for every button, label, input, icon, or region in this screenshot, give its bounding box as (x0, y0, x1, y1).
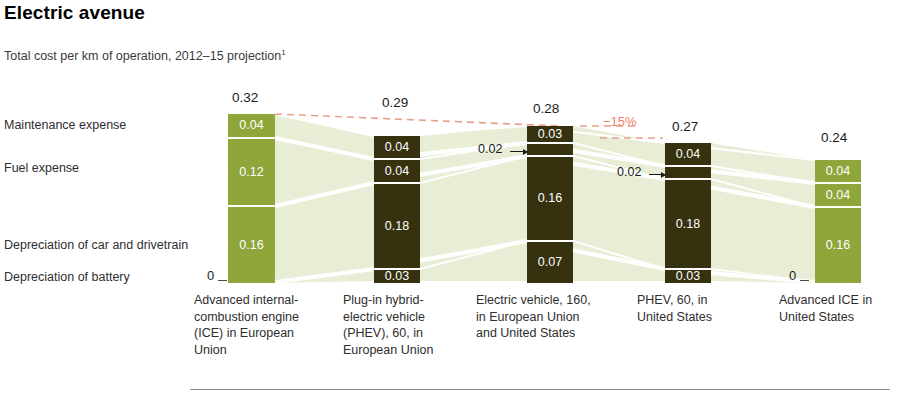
category-line: Advanced internal- (194, 292, 336, 309)
bar-segment-maintenance[interactable]: 0.03 (527, 126, 573, 142)
category-line: Union (194, 342, 336, 359)
category-label-ev-160-eu-us: Electric vehicle, 160, in European Union… (476, 292, 624, 342)
bar-segment-fuel[interactable]: 0.04 (374, 160, 420, 182)
zero-tick-left: 0 (207, 268, 214, 283)
callout-fuel-value: 0.02 (478, 142, 527, 156)
category-label-advanced-ice-us: Advanced ICE in United States (779, 292, 899, 325)
segment-value: 0.04 (826, 165, 850, 178)
bar-segment-battery[interactable]: 0.03 (665, 270, 711, 283)
bar-segment-drivetrain[interactable]: 0.16 (527, 157, 573, 240)
bar-total-label: 0.24 (821, 130, 847, 145)
category-line: in European Union (476, 309, 624, 326)
segment-value: 0.04 (826, 189, 850, 202)
bar-segment-maintenance[interactable]: 0.04 (815, 160, 861, 182)
footnote-divider (190, 389, 890, 390)
bar-segment-fuel[interactable]: 0.02 (527, 144, 573, 155)
segment-value: 0.07 (538, 256, 562, 269)
bar-segment-fuel[interactable]: 0.12 (228, 139, 275, 205)
bar-total-label: 0.28 (533, 101, 559, 116)
category-line: European Union (343, 342, 473, 359)
segment-value: 0.04 (385, 165, 409, 178)
category-label-phev-60-us: PHEV, 60, in United States (637, 292, 757, 325)
category-line: (ICE) in European (194, 325, 336, 342)
callout-label: 0.02 (478, 142, 502, 156)
segment-value: 0.04 (239, 119, 263, 132)
category-line: Advanced ICE in (779, 292, 899, 309)
bar-segment-maintenance[interactable]: 0.04 (374, 136, 420, 158)
segment-value: 0.03 (385, 270, 409, 283)
bar-total-label: 0.32 (232, 90, 258, 105)
delta-annotation: −15% (603, 114, 637, 129)
category-line: United States (637, 309, 757, 326)
trend-dashed-line (275, 114, 640, 126)
segment-value: 0.03 (676, 270, 700, 283)
category-line: (PHEV), 60, in (343, 325, 473, 342)
category-line: Plug-in hybrid- (343, 292, 473, 309)
bar-total-label: 0.29 (382, 95, 408, 110)
segment-value: 0.16 (239, 239, 263, 252)
bar-total-label: 0.27 (672, 119, 698, 134)
category-line: Electric vehicle, 160, (476, 292, 624, 309)
tick-mark (218, 280, 227, 282)
bar-segment-battery[interactable]: 0.03 (374, 270, 420, 283)
category-label-phev-60-eu: Plug-in hybrid- electric vehicle (PHEV),… (343, 292, 473, 358)
segment-value: 0.18 (385, 220, 409, 233)
segment-value: 0.18 (676, 218, 700, 231)
zero-label: 0 (789, 268, 796, 283)
segment-value: 0.16 (538, 192, 562, 205)
bar-segment-drivetrain[interactable]: 0.18 (374, 184, 420, 268)
callout-leader-line (649, 174, 665, 175)
segment-value: 0.03 (538, 128, 562, 141)
bar-segment-drivetrain[interactable]: 0.16 (228, 207, 275, 283)
callout-label: 0.02 (617, 165, 641, 179)
tick-mark (800, 280, 809, 282)
bar-segment-maintenance[interactable]: 0.04 (228, 114, 275, 137)
category-line: and United States (476, 325, 624, 342)
segment-value: 0.04 (385, 141, 409, 154)
bar-segment-drivetrain[interactable]: 0.16 (815, 208, 861, 283)
bar-segment-fuel[interactable]: 0.02 (665, 167, 711, 178)
segment-value: 0.12 (239, 166, 263, 179)
category-line: combustion engine (194, 309, 336, 326)
category-line: PHEV, 60, in (637, 292, 757, 309)
zero-tick-right: 0 (789, 268, 796, 283)
segment-value: 0.16 (826, 239, 850, 252)
category-label-advanced-ice-eu: Advanced internal- combustion engine (IC… (194, 292, 336, 358)
bar-segment-drivetrain[interactable]: 0.18 (665, 180, 711, 268)
callout-leader-line (510, 151, 527, 152)
category-line: electric vehicle (343, 309, 473, 326)
callout-fuel-value: 0.02 (617, 165, 665, 179)
bar-segment-fuel[interactable]: 0.04 (815, 184, 861, 206)
category-line: United States (779, 309, 899, 326)
bar-segment-battery[interactable]: 0.07 (527, 242, 573, 283)
zero-label: 0 (207, 268, 214, 283)
segment-value: 0.04 (676, 148, 700, 161)
bar-segment-maintenance[interactable]: 0.04 (665, 143, 711, 165)
